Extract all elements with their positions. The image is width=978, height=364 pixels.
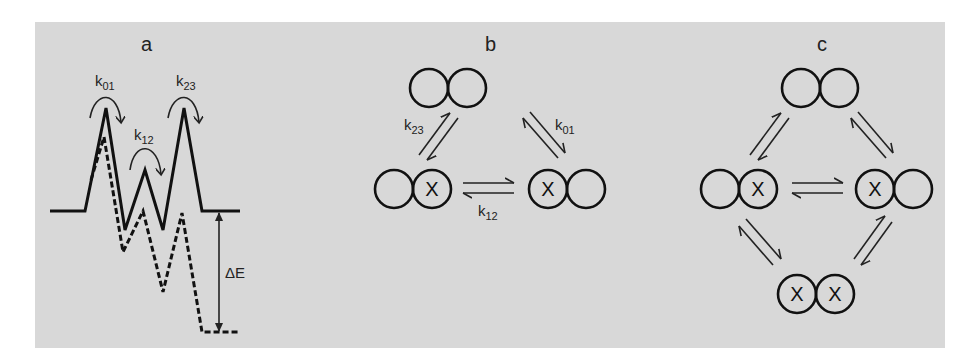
panel-c-label: c	[817, 33, 827, 55]
svg-text:X: X	[541, 178, 554, 200]
panel-b-label: b	[485, 33, 496, 55]
svg-text:X: X	[425, 178, 438, 200]
panel-a-label: a	[141, 33, 153, 55]
delta-e-label: ΔE	[225, 264, 245, 281]
kinetic-scheme-figure: a k01 k12 k23 ΔE b	[0, 0, 978, 364]
svg-text:X: X	[790, 283, 803, 305]
svg-text:X: X	[828, 283, 841, 305]
svg-text:X: X	[868, 178, 881, 200]
svg-text:X: X	[751, 178, 764, 200]
